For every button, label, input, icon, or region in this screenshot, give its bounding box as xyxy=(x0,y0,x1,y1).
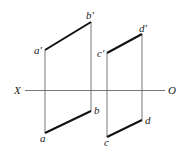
label-x: X xyxy=(13,84,22,96)
label-o: O xyxy=(168,84,176,96)
segment-cd-top xyxy=(107,120,142,137)
segment-ab-front xyxy=(45,22,91,50)
label-a: a xyxy=(40,132,46,144)
label-b-prime: b′ xyxy=(86,9,95,21)
segment-cd-front xyxy=(107,34,142,53)
label-d-prime: d′ xyxy=(139,22,148,34)
label-c: c xyxy=(104,136,109,148)
label-b: b xyxy=(94,104,100,116)
label-d: d xyxy=(145,114,151,126)
segment-ab-top xyxy=(45,111,91,133)
label-a-prime: a′ xyxy=(34,44,43,56)
label-c-prime: c′ xyxy=(97,47,105,59)
projection-diagram: X O a′ b′ c′ d′ a b c d xyxy=(0,0,183,158)
